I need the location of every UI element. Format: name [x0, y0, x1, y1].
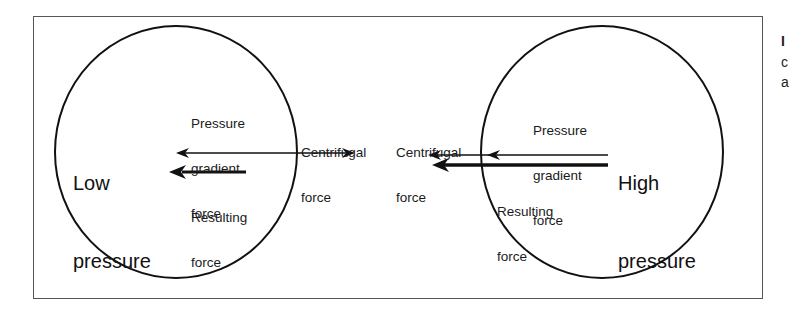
low-centrifugal-label: Centrifugal force	[301, 115, 366, 220]
cropped-fragment-2: c	[781, 54, 788, 70]
low-pressure-title: Low pressure	[73, 118, 151, 300]
low-pgf-line1: Pressure	[191, 116, 245, 131]
high-rf-line1: Resulting	[497, 204, 553, 219]
high-rf-line2: force	[497, 249, 553, 264]
high-title-line2: pressure	[618, 248, 696, 274]
cropped-fragment-3: a	[781, 74, 789, 90]
low-title-line2: pressure	[73, 248, 151, 274]
high-cf-line1: Centrifugal	[396, 145, 461, 160]
low-rf-line1: Resulting	[191, 210, 247, 225]
low-resulting-label: Resulting force	[191, 180, 247, 285]
high-pgf-line1: Pressure	[533, 123, 587, 138]
cropped-fragment-1: I	[781, 33, 785, 49]
low-cf-line1: Centrifugal	[301, 145, 366, 160]
low-cf-line2: force	[301, 190, 366, 205]
high-centrifugal-label: Centrifugal force	[396, 115, 461, 220]
low-title-line1: Low	[73, 170, 151, 196]
low-pgf-line2: gradient	[191, 161, 245, 176]
high-title-line1: High	[618, 170, 696, 196]
low-rf-line2: force	[191, 255, 247, 270]
high-cf-line2: force	[396, 190, 461, 205]
high-resulting-label: Resulting force	[497, 174, 553, 279]
high-pressure-title: High pressure	[618, 118, 696, 300]
